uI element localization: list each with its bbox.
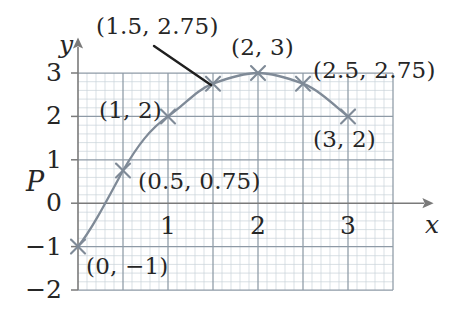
x-tick-label-3: 3 [333,213,363,238]
curve-label-p: P [26,168,44,195]
x-axis-label: x [425,212,439,237]
annotation-point-3: (3, 2) [313,128,376,151]
y-axis-label: y [59,32,73,57]
y-tick-label-minus-1: −1 [18,234,62,259]
y-tick-label-3: 3 [26,60,62,85]
graph-figure: 3 2 1 0 −1 −2 1 2 3 y x P (1.5, 2.75) (2… [0,0,459,328]
annotation-point-0-5: (0.5, 0.75) [138,170,261,193]
annotation-point-1-5: (1.5, 2.75) [96,15,219,38]
y-tick-label-minus-2: −2 [18,277,62,302]
annotation-point-2: (2, 3) [231,36,294,59]
x-tick-label-1: 1 [153,213,183,238]
annotation-point-1: (1, 2) [99,99,162,122]
annotation-point-2-5: (2.5, 2.75) [313,59,436,82]
y-tick-label-2: 2 [26,103,62,128]
annotation-point-0: (0, −1) [86,255,169,278]
x-tick-label-2: 2 [243,213,273,238]
y-axis-ticks [71,73,78,290]
leader-line-p15 [154,46,211,85]
